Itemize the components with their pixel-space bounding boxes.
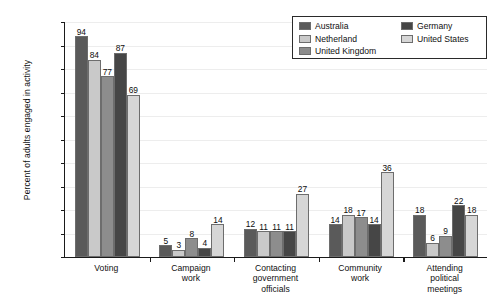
legend-label: United Kingdom [315,46,376,56]
legend-item[interactable]: United States [401,32,469,44]
legend-item[interactable]: Australia [299,20,376,32]
x-category-label: Attendingpoliticalmeetings [402,263,487,294]
x-category-label-line: officials [233,284,318,294]
legend: AustraliaNetherlandUnited Kingdom German… [292,16,487,59]
legend-swatch [401,22,413,30]
bar-value-label: 12 [246,220,255,229]
bar[interactable]: 69 [127,95,140,257]
x-axis-separator [150,257,151,262]
bar[interactable]: 14 [211,224,224,257]
x-category-label: Campaignwork [149,263,234,284]
bar[interactable]: 36 [381,172,394,257]
bar-group: 538414 [150,22,235,257]
x-category-label: Contactinggovernmentofficials [233,263,318,294]
bar-value-label: 5 [164,237,169,246]
bar[interactable]: 5 [159,245,172,257]
bar-value-label: 77 [103,68,112,77]
legend-label: United States [417,34,469,44]
x-category-label-line: work [318,273,403,283]
legend-item[interactable]: Germany [401,20,469,32]
bar-value-label: 27 [298,185,307,194]
bar-value-label: 11 [285,223,294,232]
bar-value-label: 11 [259,223,268,232]
bar[interactable]: 27 [296,194,309,257]
bar[interactable]: 4 [198,248,211,257]
x-category-label: Communitywork [318,263,403,284]
bar-value-label: 14 [330,216,339,225]
legend-column-right: GermanyUnited States [401,20,469,45]
bar-value-label: 18 [467,206,476,215]
bar[interactable]: 18 [465,215,478,257]
bars-row: 9484778769 [65,22,150,257]
bar-value-label: 22 [454,197,463,206]
bar-value-label: 69 [129,86,138,95]
bar[interactable]: 84 [88,60,101,257]
bar[interactable]: 9 [439,236,452,257]
bar-chart: Percent of adults engaged in activity 0%… [0,0,498,306]
bar-value-label: 3 [177,241,182,250]
bar-value-label: 94 [77,28,86,37]
bar-value-label: 36 [382,164,391,173]
legend-swatch [299,47,311,55]
bar[interactable]: 18 [413,215,426,257]
bar-value-label: 14 [369,216,378,225]
bar[interactable]: 8 [185,238,198,257]
bar[interactable]: 3 [172,250,185,257]
x-category-label-line: Contacting [233,263,318,273]
x-category-label-line: political [402,273,487,283]
legend-swatch [299,22,311,30]
y-axis-title: Percent of adults engaged in activity [22,30,32,230]
bar[interactable]: 14 [329,224,342,257]
bar[interactable]: 18 [342,215,355,257]
y-tick-mark [61,257,65,258]
bar-value-label: 18 [415,206,424,215]
x-axis-separator [403,257,404,262]
x-category-label-line: Campaign [149,263,234,273]
x-category-label-line: Attending [402,263,487,273]
legend-column-left: AustraliaNetherlandUnited Kingdom [299,20,376,57]
x-category-label-line: meetings [402,284,487,294]
bar-value-label: 17 [356,209,365,218]
bar-value-label: 14 [213,216,222,225]
x-axis-separator [319,257,320,262]
bar-value-label: 6 [430,234,435,243]
bar[interactable]: 94 [75,36,88,257]
bar[interactable]: 22 [452,205,465,257]
bar-value-label: 8 [190,230,195,239]
bar[interactable]: 11 [257,231,270,257]
legend-label: Germany [417,21,452,31]
bar[interactable]: 77 [101,76,114,257]
x-category-label-line: work [149,273,234,283]
legend-item[interactable]: United Kingdom [299,45,376,57]
x-category-label-line: government [233,273,318,283]
bar[interactable]: 14 [368,224,381,257]
bar-value-label: 11 [272,223,281,232]
legend-label: Australia [315,21,348,31]
x-category-label-line: Voting [64,263,149,273]
bar[interactable]: 12 [244,229,257,257]
x-category-label-line: Community [318,263,403,273]
legend-swatch [299,35,311,43]
bars-row: 538414 [150,22,235,257]
bar[interactable]: 11 [270,231,283,257]
bar[interactable]: 11 [283,231,296,257]
bar-value-label: 9 [443,227,448,236]
legend-label: Netherland [315,34,357,44]
legend-item[interactable]: Netherland [299,32,376,44]
bar[interactable]: 6 [426,243,439,257]
bar-value-label: 84 [90,51,99,60]
bar-value-label: 18 [343,206,352,215]
bar-group: 9484778769 [65,22,150,257]
bar-value-label: 87 [116,44,125,53]
legend-swatch [401,35,413,43]
bar-value-label: 4 [203,239,208,248]
bar[interactable]: 17 [355,217,368,257]
bar[interactable]: 87 [114,53,127,257]
x-category-label: Voting [64,263,149,273]
x-axis-separator [234,257,235,262]
